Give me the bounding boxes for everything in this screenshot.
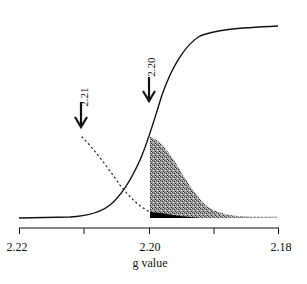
annotation-2.20: 2.20 [143,57,157,101]
tick-label-2.20: 2.20 [140,240,161,254]
dotted-distribution-line [82,137,150,212]
annotation-label-2.20: 2.20 [145,57,157,77]
annotation-label-2.21: 2.21 [78,87,90,106]
tick-label-2.18: 2.18 [271,240,292,254]
x-axis: 2.22 2.20 2.18 g value [7,228,292,270]
annotation-2.21: 2.21 [75,87,90,127]
x-axis-label: g value [133,256,168,270]
sigmoid-curve [19,26,278,218]
g-value-chart: 2.22 2.20 2.18 g value 2.21 2.20 [0,0,307,284]
tick-label-2.22: 2.22 [7,240,28,254]
down-arrow-icon [143,77,155,101]
shaded-distribution [150,137,278,218]
